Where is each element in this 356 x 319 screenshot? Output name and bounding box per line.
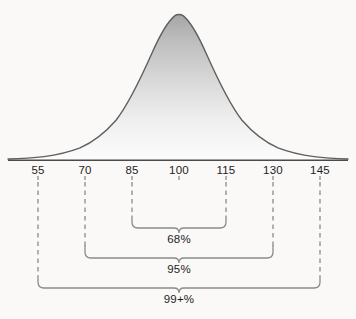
band-label-95: 95% (167, 263, 191, 275)
axis-tick-label-70: 70 (78, 164, 91, 176)
axis-tick-label-130: 130 (263, 164, 283, 176)
bracket-path-95 (85, 246, 273, 263)
normal-distribution-figure: 55 70 85 100 115 130 145 68% 95% (0, 0, 356, 319)
axis-tick-label-85: 85 (125, 164, 138, 176)
distribution-chart-svg: 55 70 85 100 115 130 145 68% 95% (0, 0, 356, 319)
bell-curve-area (8, 14, 348, 159)
axis-tick-label-100: 100 (169, 164, 189, 176)
axis-tick-label-115: 115 (217, 164, 236, 176)
band-label-68: 68% (167, 233, 191, 245)
bracket-path-99 (38, 276, 320, 293)
band-bracket-99: 99+% (38, 276, 320, 305)
axis-tick-label-145: 145 (310, 164, 330, 176)
axis-tick-marks (38, 176, 320, 180)
band-label-99: 99+% (164, 293, 195, 305)
axis-tick-labels: 55 70 85 100 115 130 145 (31, 164, 330, 176)
band-bracket-95: 95% (85, 246, 273, 275)
axis-tick-label-55: 55 (31, 164, 44, 176)
band-bracket-68: 68% (132, 216, 226, 245)
bell-curve-fill (8, 14, 348, 159)
bracket-path-68 (132, 216, 226, 233)
